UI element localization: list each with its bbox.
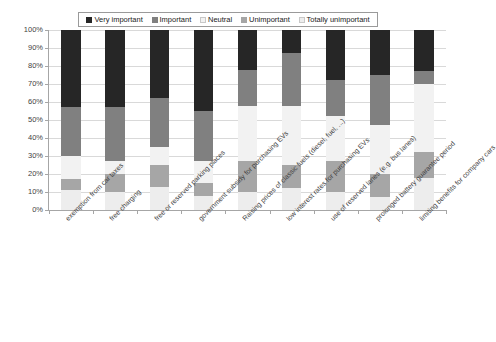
x-axis-tick [225, 210, 226, 214]
x-axis-tick [49, 210, 50, 214]
bar-group[interactable] [370, 30, 389, 210]
x-axis-tick [358, 210, 359, 214]
bar-segment[interactable] [414, 30, 433, 71]
y-axis-tick [45, 84, 49, 85]
bar-segment[interactable] [238, 70, 257, 106]
bar-segment[interactable] [194, 30, 213, 111]
y-axis-tick-label: 40% [28, 134, 43, 142]
y-axis-tick-label: 0% [32, 206, 43, 214]
y-axis-tick [45, 30, 49, 31]
stacked-bar[interactable] [105, 30, 124, 210]
bar-segment[interactable] [61, 107, 80, 156]
x-axis-tick [314, 210, 315, 214]
stacked-bar[interactable] [61, 30, 80, 210]
legend-label: Important [160, 16, 192, 24]
bar-segment[interactable] [105, 107, 124, 161]
x-axis-tick [181, 210, 182, 214]
y-axis-tick-label: 50% [28, 116, 43, 124]
x-axis-tick [446, 210, 447, 214]
legend-swatch-icon [152, 17, 158, 23]
x-axis-tick [93, 210, 94, 214]
legend-swatch-icon [86, 17, 92, 23]
bar-segment[interactable] [282, 30, 301, 53]
bar-segment[interactable] [105, 30, 124, 107]
legend-item: Unimportant [241, 16, 290, 24]
y-axis-tick-label: 60% [28, 98, 43, 106]
bar-segment[interactable] [238, 30, 257, 70]
y-axis-tick [45, 192, 49, 193]
bar-segment[interactable] [150, 165, 169, 187]
bar-group[interactable] [150, 30, 169, 210]
y-axis-tick-label: 30% [28, 152, 43, 160]
bar-segment[interactable] [150, 30, 169, 98]
y-axis-tick [45, 138, 49, 139]
y-axis-tick-label: 100% [24, 26, 43, 34]
bar-segment[interactable] [370, 75, 389, 125]
bar-segment[interactable] [326, 80, 345, 116]
y-axis-tick [45, 48, 49, 49]
bar-segment[interactable] [370, 30, 389, 75]
legend-item: Important [152, 16, 192, 24]
y-axis-tick [45, 174, 49, 175]
legend-item: Totally unimportant [299, 16, 370, 24]
legend-swatch-icon [299, 17, 305, 23]
bar-segment[interactable] [61, 30, 80, 107]
y-axis-tick-label: 10% [28, 188, 43, 196]
y-axis-tick-label: 70% [28, 80, 43, 88]
bar-group[interactable] [61, 30, 80, 210]
y-axis-tick-label: 80% [28, 62, 43, 70]
x-axis-tick [402, 210, 403, 214]
bar-group[interactable] [105, 30, 124, 210]
bar-segment[interactable] [61, 156, 80, 179]
bar-segment[interactable] [326, 30, 345, 80]
bar-segment[interactable] [282, 53, 301, 105]
y-axis-tick-label: 90% [28, 44, 43, 52]
y-axis-tick [45, 102, 49, 103]
legend-label: Unimportant [249, 16, 290, 24]
legend-item: Neutral [200, 16, 232, 24]
y-axis-tick [45, 66, 49, 67]
bar-segment[interactable] [414, 84, 433, 152]
bar-segment[interactable] [238, 106, 257, 162]
legend-swatch-icon [200, 17, 206, 23]
bar-segment[interactable] [194, 183, 213, 196]
stacked-bar[interactable] [370, 30, 389, 210]
legend-label: Neutral [208, 16, 232, 24]
legend-swatch-icon [241, 17, 247, 23]
bar-segment[interactable] [414, 71, 433, 84]
x-axis-tick [137, 210, 138, 214]
chart-legend: Very importantImportantNeutralUnimportan… [78, 12, 378, 27]
bar-segment[interactable] [150, 98, 169, 147]
bar-segment[interactable] [194, 111, 213, 161]
y-axis-tick-label: 20% [28, 170, 43, 178]
plot-area: 0%10%20%30%40%50%60%70%80%90%100% [48, 30, 446, 211]
y-axis-tick [45, 156, 49, 157]
bar-segment[interactable] [150, 147, 169, 165]
bar-segment[interactable] [61, 179, 80, 190]
y-axis-tick [45, 120, 49, 121]
stacked-bar[interactable] [150, 30, 169, 210]
legend-label: Totally unimportant [307, 16, 370, 24]
legend-label: Very important [94, 16, 142, 24]
x-axis-tick [270, 210, 271, 214]
legend-item: Very important [86, 16, 142, 24]
